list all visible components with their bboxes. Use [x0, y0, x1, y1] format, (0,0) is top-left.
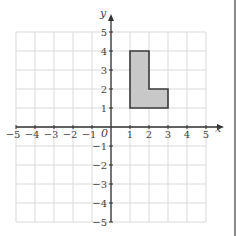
l-shape-polygon: [130, 51, 168, 108]
y-tick-label: 1: [101, 103, 107, 114]
y-tick-label: 4: [101, 46, 107, 57]
y-tick-label: −4: [92, 198, 107, 209]
y-tick-label: −1: [92, 141, 107, 152]
right-edge-border: [234, 0, 236, 236]
y-axis-arrow-icon: [108, 14, 114, 21]
x-tick-label: 1: [127, 129, 133, 140]
origin-label: 0: [101, 127, 108, 140]
x-tick-label: −5: [6, 129, 21, 140]
x-tick-label: 2: [146, 129, 152, 140]
x-tick-label: 4: [184, 129, 190, 140]
x-tick-label: −1: [82, 129, 97, 140]
y-tick-label: 5: [101, 27, 107, 38]
x-axis-label: x: [215, 122, 222, 135]
y-axis-label: y: [99, 7, 107, 20]
x-tick-label: −4: [25, 129, 40, 140]
coordinate-grid: −5−4−3−2−11234554321−1−2−3−4−5 x y 0: [0, 0, 236, 236]
y-tick-label: 3: [101, 65, 107, 76]
axes: [16, 14, 224, 222]
x-tick-label: 5: [203, 129, 209, 140]
x-tick-label: −2: [63, 129, 78, 140]
y-tick-label: −2: [92, 160, 107, 171]
y-tick-label: 2: [101, 84, 107, 95]
y-tick-label: −3: [92, 179, 107, 190]
x-tick-label: 3: [165, 129, 171, 140]
x-tick-label: −3: [44, 129, 59, 140]
y-tick-label: −5: [92, 217, 107, 228]
